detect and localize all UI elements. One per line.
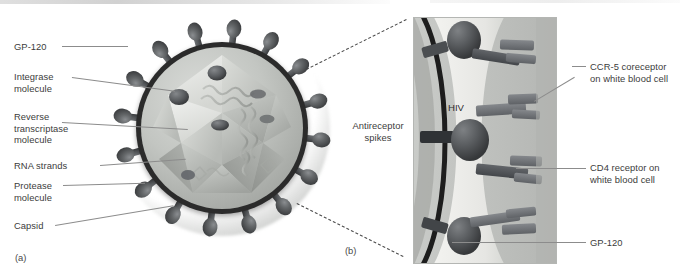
- label-gp120-inset: GP-120: [590, 237, 623, 249]
- gp120-knob: [113, 108, 133, 125]
- gp120-knob: [226, 19, 243, 39]
- gp120-knob: [202, 217, 219, 237]
- label-antireceptor-spikes: Antireceptor spikes: [345, 120, 411, 143]
- panel-tag-b: (b): [345, 245, 356, 256]
- reverse-transcriptase-molecule: [211, 120, 229, 131]
- receptor-binding-inset: HIV: [413, 17, 557, 264]
- label-rna-strands: RNA strands: [14, 160, 67, 172]
- panel-tag-a: (a): [15, 252, 26, 263]
- label-gp120: GP-120: [14, 41, 47, 53]
- gp120-knob: [239, 213, 258, 235]
- label-protease-molecule: Protease molecule: [14, 180, 52, 203]
- label-capsid: Capsid: [14, 220, 43, 232]
- leader-ccr5-flat: [572, 66, 586, 67]
- leader-gp120-inset: [452, 242, 586, 243]
- enzyme-molecule-right-2: [260, 115, 275, 123]
- enzyme-molecule-right: [250, 90, 266, 99]
- gp120-knob: [311, 132, 331, 149]
- figure-canvas: GP-120 Integrase molecule Reverse transc…: [0, 0, 684, 275]
- label-ccr5-coreceptor: CCR-5 coreceptor on white blood cell: [590, 61, 668, 84]
- integrase-molecule-top: [208, 66, 227, 81]
- scan-artifact-band-right: [430, 0, 680, 3]
- gp120-knob: [185, 21, 204, 43]
- receptor-binding-illustration: [414, 18, 556, 263]
- gp120-knob: [307, 91, 329, 110]
- hiv-inner-label: HIV: [448, 102, 464, 113]
- protease-molecule: [181, 170, 195, 180]
- label-integrase-molecule: Integrase molecule: [14, 71, 54, 94]
- hiv-virion-illustration: [108, 4, 336, 260]
- label-reverse-transcriptase-molecule: Reverse transcriptase molecule: [14, 111, 68, 146]
- label-cd4-receptor: CD4 receptor on white blood cell: [590, 162, 660, 185]
- leader-cd4: [516, 168, 586, 169]
- leader-gp120: [62, 46, 128, 47]
